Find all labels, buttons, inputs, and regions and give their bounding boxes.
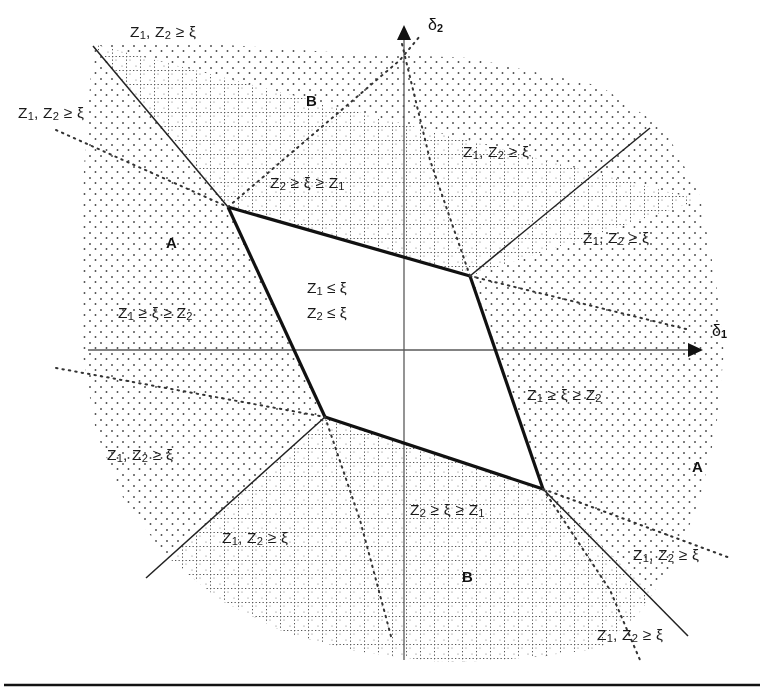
- label-lower-right-inner: Z1, Z2 ≥ ξ: [633, 545, 699, 567]
- label-left-mid: Z1 ≥ ξ ≥ Z2: [118, 303, 193, 325]
- label-upper-mid: Z2 ≥ ξ ≥ Z1: [270, 173, 345, 195]
- label-lower-left-outer: Z1, Z2 ≥ ξ: [107, 445, 173, 467]
- label-right-outer: Z1, Z2 ≥ ξ: [583, 228, 649, 250]
- center-region-label: Z1 ≤ ξ Z2 ≤ ξ: [307, 276, 347, 325]
- diagram-svg: [0, 0, 764, 692]
- label-top-outer: Z1, Z2 ≥ ξ: [130, 22, 196, 44]
- center-label-line-2: Z2 ≤ ξ: [307, 301, 347, 326]
- label-lower-right-outer: Z1, Z2 ≥ ξ: [597, 625, 663, 647]
- region-letter-b-upper: B: [306, 92, 317, 109]
- label-lower-mid: Z2 ≥ ξ ≥ Z1: [410, 500, 485, 522]
- region-letter-b-lower: B: [462, 568, 473, 585]
- y-axis-label: δ2: [428, 16, 443, 34]
- center-label-line-1: Z1 ≤ ξ: [307, 276, 347, 301]
- diagram-canvas: δ2 δ1 Z1, Z2 ≥ ξ Z1, Z2 ≥ ξ Z1, Z2 ≥ ξ Z…: [0, 0, 764, 692]
- x-axis-label: δ1: [712, 322, 727, 340]
- label-upper-right-inner: Z1, Z2 ≥ ξ: [463, 142, 529, 164]
- label-right-mid: Z1 ≥ ξ ≥ Z2: [527, 385, 602, 407]
- label-upper-left-outer: Z1, Z2 ≥ ξ: [18, 103, 84, 125]
- region-letter-a-lower-right: A: [692, 458, 703, 475]
- label-lower-left-inner: Z1, Z2 ≥ ξ: [222, 528, 288, 550]
- y-axis-arrowhead: [397, 25, 411, 40]
- region-letter-a-upper-left: A: [166, 234, 177, 251]
